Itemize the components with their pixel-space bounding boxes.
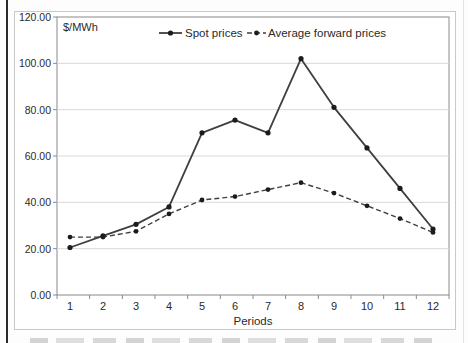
x-axis-tick-label: 1 [67,300,73,312]
axis-unit-label: $/MWh [63,21,98,33]
y-axis-tick-label: 100.00 [19,57,51,69]
data-point-forward-p7 [266,187,271,192]
legend-label-spot-prices: Spot prices [185,27,243,39]
y-axis-tick-label: 40.00 [25,196,51,208]
y-axis-tick-label: 120.00 [19,11,51,23]
data-point-spot-p10 [364,145,369,150]
data-point-spot-p9 [331,105,336,110]
x-axis-tick-label: 12 [427,300,439,312]
y-axis-tick-label: 80.00 [25,104,51,116]
y-axis-tick-label: 20.00 [25,243,51,255]
y-axis: 0.0020.0040.0060.0080.00100.00120.00 [19,11,57,301]
x-axis-tick-label: 7 [265,300,271,312]
data-point-spot-p3 [133,222,138,227]
prices-line-chart: 0.0020.0040.0060.0080.00100.00120.00 123… [0,0,468,343]
legend: Spot prices Average forward prices [159,27,386,39]
y-axis-tick-label: 0.00 [31,289,52,301]
data-point-forward-p1 [68,235,73,240]
data-point-forward-p5 [200,198,205,203]
x-axis-tick-label: 3 [133,300,139,312]
x-axis-title: Periods [234,315,273,327]
x-axis-tick-label: 6 [232,300,238,312]
data-point-forward-p4 [167,212,172,217]
data-point-spot-p4 [166,204,171,209]
cropped-caption-remnant [30,338,440,343]
x-axis-tick-label: 4 [166,300,172,312]
data-point-forward-p11 [398,216,403,221]
data-point-forward-p9 [332,191,337,196]
x-axis-tick-label: 9 [331,300,337,312]
data-point-forward-p2 [101,235,106,240]
x-axis-tick-label: 10 [361,300,373,312]
x-axis-tick-label: 11 [394,300,405,312]
scanned-figure-page: 0.0020.0040.0060.0080.00100.00120.00 123… [0,0,468,343]
legend-item-average-forward-prices: Average forward prices [247,27,386,39]
data-point-forward-p6 [233,194,238,199]
x-axis-tick-label: 8 [298,300,304,312]
data-point-forward-p3 [134,229,139,234]
legend-label-average-forward-prices: Average forward prices [268,27,386,39]
data-point-forward-p8 [299,180,304,185]
data-point-forward-p10 [365,203,370,208]
y-axis-tick-label: 60.00 [25,150,51,162]
legend-forward-marker-icon [254,31,259,36]
data-point-spot-p7 [265,130,270,135]
data-point-forward-p12 [431,230,436,235]
data-point-spot-p5 [199,130,204,135]
x-axis-tick-label: 5 [199,300,205,312]
data-point-spot-p1 [67,245,72,250]
x-axis-tick-label: 2 [100,300,106,312]
legend-spot-marker-icon [168,30,173,35]
data-point-spot-p11 [397,186,402,191]
data-point-spot-p8 [298,56,303,61]
data-point-spot-p6 [232,117,237,122]
x-axis: 123456789101112 [57,295,449,312]
